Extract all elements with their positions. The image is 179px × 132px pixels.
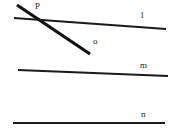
point-label-p: P — [35, 2, 40, 11]
line-label-o: o — [93, 37, 98, 46]
geometry-diagram-canvas: P l o m n — [0, 0, 179, 132]
line-label-n: n — [141, 110, 146, 119]
line-m — [18, 70, 168, 76]
geometry-diagram-svg — [0, 0, 179, 132]
transversal-line-o — [17, 5, 90, 54]
line-label-m: m — [140, 61, 147, 70]
line-label-l: l — [141, 11, 144, 20]
